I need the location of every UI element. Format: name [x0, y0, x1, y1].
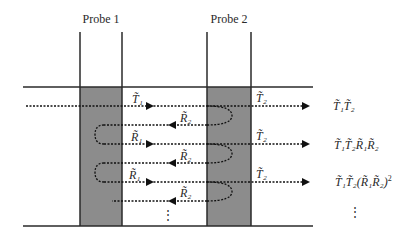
- label-t2-row5: T̃₂: [256, 167, 267, 181]
- output-3: T̃₁T̃₂(R̃₁R̃₂)2: [335, 174, 392, 189]
- probe-2-label: Probe 2: [211, 12, 248, 26]
- label-r2-row6: R̃₂: [179, 186, 192, 200]
- label-r1-row3: R̃₁: [130, 130, 143, 144]
- label-t2-row1: T̃₂: [256, 91, 267, 105]
- probe-1-label: Probe 1: [83, 12, 120, 26]
- ellipsis-middle: ⋮: [162, 208, 174, 222]
- output-3-base: T̃₁T̃₂(R̃₁R̃₂): [335, 175, 388, 189]
- label-r2-row2: R̃₂: [179, 111, 192, 125]
- output-1: T̃₁T̃₂: [333, 99, 355, 113]
- label-t2-row3: T̃₂: [256, 129, 267, 143]
- output-2: T̃₁T̃₂R̃₁R̃₂: [334, 138, 379, 152]
- probe-2-region: [207, 87, 251, 226]
- label-t1: T̃₁: [132, 92, 143, 106]
- ellipsis-output: ⋮: [349, 205, 361, 219]
- label-r2-row4: R̃₂: [179, 149, 192, 163]
- output-3-exponent: 2: [388, 174, 392, 183]
- probe-1-region: [80, 87, 122, 226]
- label-r1-row5: R̃₁: [128, 168, 141, 182]
- multiple-reflection-diagram: Probe 1 Probe 2 T̃₁ T̃₂ R̃₂ R̃₁ T̃₂ R̃₂ …: [0, 0, 417, 232]
